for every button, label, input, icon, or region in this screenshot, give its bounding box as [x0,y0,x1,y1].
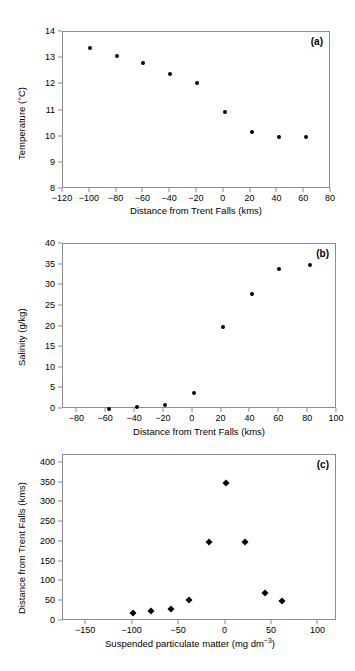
plot-area-a: (a) [62,31,330,188]
y-tick [58,501,62,502]
x-tick-label: −100 [122,625,142,636]
plot-area-b: (b) [62,243,336,408]
x-tick-label: 20 [216,413,226,424]
panel-label-b: (b) [316,248,329,259]
x-tick [62,188,63,192]
data-point [223,480,230,487]
y-tick [58,620,62,621]
x-tick [131,620,132,624]
x-tick-label: 50 [266,625,276,636]
y-tick-label: 250 [40,516,55,527]
data-point [107,407,111,411]
data-points-b [63,244,335,407]
x-tick-label: 20 [245,193,255,204]
data-point [205,539,212,546]
y-tick [58,263,62,264]
data-point [223,110,227,114]
data-point [148,608,155,615]
y-tick-label: 0 [50,615,55,626]
y-tick [58,481,62,482]
panel-label-a: (a) [311,36,323,47]
y-tick-label: 35 [45,258,55,269]
data-point [250,130,254,134]
data-point [192,391,196,395]
x-axis-title-a: Distance from Trent Falls (kms) [62,205,330,216]
y-tick [58,83,62,84]
x-tick-label: −120 [52,193,72,204]
x-tick-label: 0 [222,625,227,636]
x-tick [88,188,89,192]
y-tick [58,135,62,136]
y-tick-label: 20 [45,320,55,331]
y-tick [58,109,62,110]
data-point [141,61,145,65]
y-tick-label: 150 [40,555,55,566]
x-tick [191,408,192,412]
y-tick-label: 50 [45,595,55,606]
data-point [221,325,225,329]
x-tick [105,408,106,412]
data-point [88,46,92,50]
x-tick-label: −50 [170,625,185,636]
x-tick [303,188,304,192]
x-tick-label: −100 [79,193,99,204]
x-tick [142,188,143,192]
y-tick [58,461,62,462]
y-tick-label: 350 [40,476,55,487]
data-point [277,267,281,271]
y-tick-label: 100 [40,575,55,586]
x-tick-label: −80 [108,193,123,204]
data-point [168,72,172,76]
x-tick [224,620,225,624]
x-tick-label: −40 [162,193,177,204]
x-tick [336,408,337,412]
y-tick [58,284,62,285]
data-point [115,54,119,58]
x-tick-label: 100 [310,625,325,636]
x-tick [278,408,279,412]
chart-panel-b: (b) −80−60−40−20020406080100051015202530… [0,226,355,451]
x-tick-label: 80 [302,413,312,424]
x-tick-label: −20 [188,193,203,204]
x-tick [169,188,170,192]
data-point [129,609,136,616]
y-tick [58,57,62,58]
y-axis-title-a: Temperature (°C) [16,87,27,160]
y-tick [58,188,62,189]
data-point [195,81,199,85]
y-tick [58,346,62,347]
y-tick [58,580,62,581]
y-tick [58,387,62,388]
y-tick-label: 12 [45,78,55,89]
x-tick-label: −20 [155,413,170,424]
x-tick-label: 40 [244,413,254,424]
data-points-c [63,455,335,619]
x-tick [162,408,163,412]
data-point [186,596,193,603]
x-axis-title-b: Distance from Trent Falls (kms) [62,426,336,437]
data-point [277,135,281,139]
x-tick-label: −60 [98,413,113,424]
x-tick [178,620,179,624]
y-tick [58,31,62,32]
y-axis-title-b: Salinity (g/kg) [16,308,27,366]
data-point [308,263,312,267]
y-tick [58,521,62,522]
y-tick-label: 5 [50,382,55,393]
y-tick-label: 200 [40,535,55,546]
x-tick-label: −150 [75,625,95,636]
y-tick-label: 30 [45,279,55,290]
data-point [135,405,139,409]
y-tick-label: 11 [46,104,55,115]
x-axis-title-c: Suspended particulate matter (mg dm−3) [40,638,340,649]
y-tick [58,560,62,561]
data-point [250,292,254,296]
x-tick-label: 0 [189,413,194,424]
x-tick [220,408,221,412]
y-tick [58,408,62,409]
data-point [242,539,249,546]
y-axis-title-c: Distance from Trent Falls (kms) [16,482,27,614]
chart-panel-a: (a) −120−100−80−60−40−200204060808910111… [0,0,355,226]
y-tick-label: 15 [45,341,55,352]
y-tick [58,600,62,601]
